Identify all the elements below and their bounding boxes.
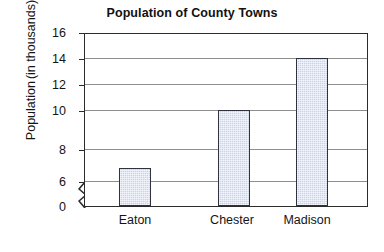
y-tick-label-6: 6 — [36, 176, 66, 188]
y-tick-label-10: 10 — [36, 105, 66, 117]
x-label-eaton: Eaton — [90, 213, 180, 227]
bar-chester[interactable] — [218, 110, 250, 206]
x-label-madison: Madison — [262, 213, 352, 227]
y-tick-label-16: 16 — [36, 27, 66, 39]
y-axis-title: Population (in thousands) — [14, 0, 48, 150]
bar-eaton[interactable] — [119, 168, 151, 206]
chart-title: Population of County Towns — [0, 6, 384, 20]
y-tick-label-8: 8 — [36, 144, 66, 156]
y-tick-label-12: 12 — [36, 79, 66, 91]
bar-madison[interactable] — [296, 58, 328, 206]
y-tick-label-14: 14 — [36, 53, 66, 65]
bar-chart: Population of County Towns Population (i… — [0, 0, 384, 252]
y-tick-label-0: 0 — [36, 201, 66, 213]
plot-area — [84, 33, 368, 207]
